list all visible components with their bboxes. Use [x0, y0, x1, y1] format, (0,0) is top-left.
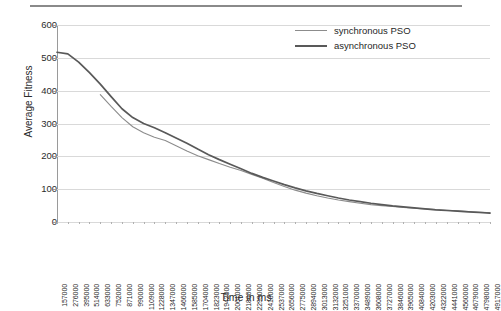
x-tick-mark: [338, 222, 339, 224]
x-tick-mark: [198, 222, 199, 224]
legend-item[interactable]: synchronous PSO: [295, 24, 416, 37]
x-tick-mark: [144, 222, 145, 224]
x-tick-mark: [133, 222, 134, 224]
x-tick-mark: [382, 222, 383, 224]
legend-line-swatch: [295, 30, 327, 31]
x-tick-mark: [328, 222, 329, 224]
x-tick-mark: [263, 222, 264, 224]
y-tick-label: 0: [11, 217, 57, 227]
y-tick-label: 500: [11, 53, 57, 63]
x-tick-mark: [154, 222, 155, 224]
legend-line-swatch: [295, 45, 327, 47]
x-tick-mark: [360, 222, 361, 224]
x-tick-mark: [393, 222, 394, 224]
x-tick-mark: [241, 222, 242, 224]
x-tick-mark: [468, 222, 469, 224]
y-tick-label: 200: [11, 151, 57, 161]
x-tick-mark: [317, 222, 318, 224]
x-tick-label: 4917000: [494, 284, 501, 311]
x-tick-mark: [490, 222, 491, 224]
x-tick-mark: [371, 222, 372, 224]
x-tick-mark: [447, 222, 448, 224]
x-axis-title: Time in ms: [0, 291, 492, 303]
x-tick-mark: [68, 222, 69, 224]
x-tick-mark: [57, 222, 58, 224]
x-tick-mark: [209, 222, 210, 224]
x-tick-mark: [349, 222, 350, 224]
x-tick-mark: [122, 222, 123, 224]
series-lines: [57, 25, 490, 222]
x-tick-mark: [425, 222, 426, 224]
x-tick-mark: [458, 222, 459, 224]
legend-label: synchronous PSO: [334, 25, 411, 36]
x-tick-mark: [252, 222, 253, 224]
x-tick-mark: [403, 222, 404, 224]
x-tick-mark: [295, 222, 296, 224]
top-divider-rule: [30, 5, 462, 7]
x-tick-mark: [187, 222, 188, 224]
legend-label: asynchronous PSO: [334, 40, 416, 51]
x-tick-mark: [89, 222, 90, 224]
x-tick-mark: [165, 222, 166, 224]
x-tick-mark: [274, 222, 275, 224]
y-tick-label: 400: [11, 86, 57, 96]
y-tick-label: 100: [11, 184, 57, 194]
x-tick-mark: [306, 222, 307, 224]
x-tick-mark: [176, 222, 177, 224]
legend-item[interactable]: asynchronous PSO: [295, 39, 416, 52]
x-tick-mark: [284, 222, 285, 224]
y-tick-label: 600: [11, 20, 57, 30]
x-axis-tick-group: 1570002760003950005140006330007520008710…: [57, 224, 490, 286]
x-tick-mark: [79, 222, 80, 224]
y-tick-label: 300: [11, 119, 57, 129]
x-tick-mark: [414, 222, 415, 224]
x-tick-mark: [479, 222, 480, 224]
x-tick-mark: [219, 222, 220, 224]
series-line-synchronous-pso: [100, 95, 490, 213]
x-tick-mark: [111, 222, 112, 224]
x-tick-mark: [230, 222, 231, 224]
chart-legend: synchronous PSOasynchronous PSO: [295, 24, 416, 54]
series-line-asynchronous-pso: [57, 52, 490, 213]
x-tick-mark: [100, 222, 101, 224]
x-tick-mark: [436, 222, 437, 224]
plot-area: [57, 25, 490, 222]
y-axis-tick-group: 6005004003002001000: [0, 0, 57, 310]
